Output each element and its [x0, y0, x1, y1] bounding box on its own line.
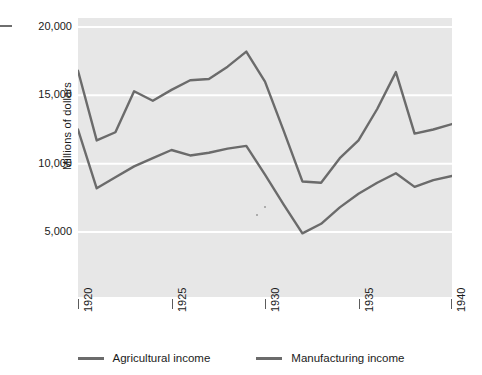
- x-tick-label: 1940: [456, 288, 467, 312]
- legend-swatch-icon: [256, 357, 282, 360]
- x-tick-label: 1925: [177, 288, 188, 312]
- x-tick-mark: [265, 299, 266, 309]
- legend-entry-agricultural[interactable]: Agricultural income: [78, 352, 211, 364]
- x-tick-label: 1920: [83, 288, 94, 312]
- legend-label-manufacturing: Manufacturing income: [291, 352, 404, 364]
- chart-figure: Millions of dollars 5,00010,00015,00020,…: [0, 0, 482, 375]
- legend-swatch-icon: [78, 357, 104, 360]
- x-axis-ticks: 19201925193019351940: [0, 0, 482, 375]
- legend-entry-manufacturing[interactable]: Manufacturing income: [256, 352, 404, 364]
- x-tick-mark: [78, 299, 79, 309]
- chart-legend: Agricultural income Manufacturing income: [0, 352, 482, 364]
- x-tick-label: 1935: [364, 288, 375, 312]
- x-tick-mark: [172, 299, 173, 309]
- x-tick-label: 1930: [270, 288, 281, 312]
- legend-label-agricultural: Agricultural income: [113, 352, 211, 364]
- x-tick-mark: [359, 299, 360, 309]
- x-tick-mark: [451, 299, 452, 309]
